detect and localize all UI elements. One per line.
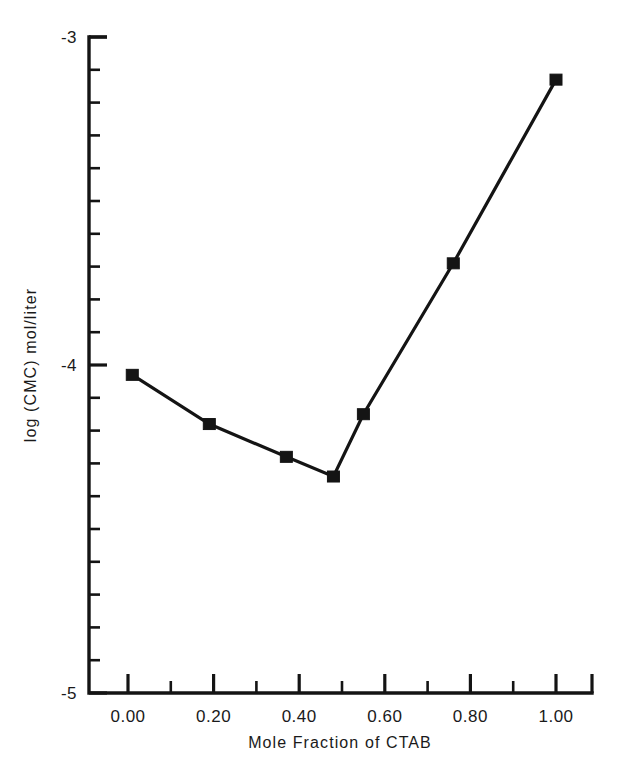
data-point-marker [357,409,369,420]
x-axis-title: Mole Fraction of CTAB [248,734,432,751]
x-tick-label: 0.00 [110,707,145,726]
x-tick-label: 1.00 [538,707,573,726]
y-axis-title: log (CMC) mol/liter [22,288,39,442]
data-point-marker [550,74,562,85]
y-tick-label: -5 [61,684,77,703]
x-tick-label: 0.20 [196,707,231,726]
y-tick-label: -3 [61,28,77,47]
x-tick-label: 0.60 [367,707,402,726]
data-point-marker [327,471,339,482]
line-chart: -3-4-5 0.000.200.400.600.801.00 Mole Fra… [0,0,631,780]
data-point-marker [447,258,459,269]
x-tick-label: 0.40 [282,707,317,726]
data-point-marker [280,451,292,462]
figure-container: -3-4-5 0.000.200.400.600.801.00 Mole Fra… [0,0,631,780]
data-point-marker [126,369,138,380]
data-point-marker [203,419,215,430]
y-tick-label: -4 [61,356,77,375]
x-tick-label: 0.80 [453,707,488,726]
